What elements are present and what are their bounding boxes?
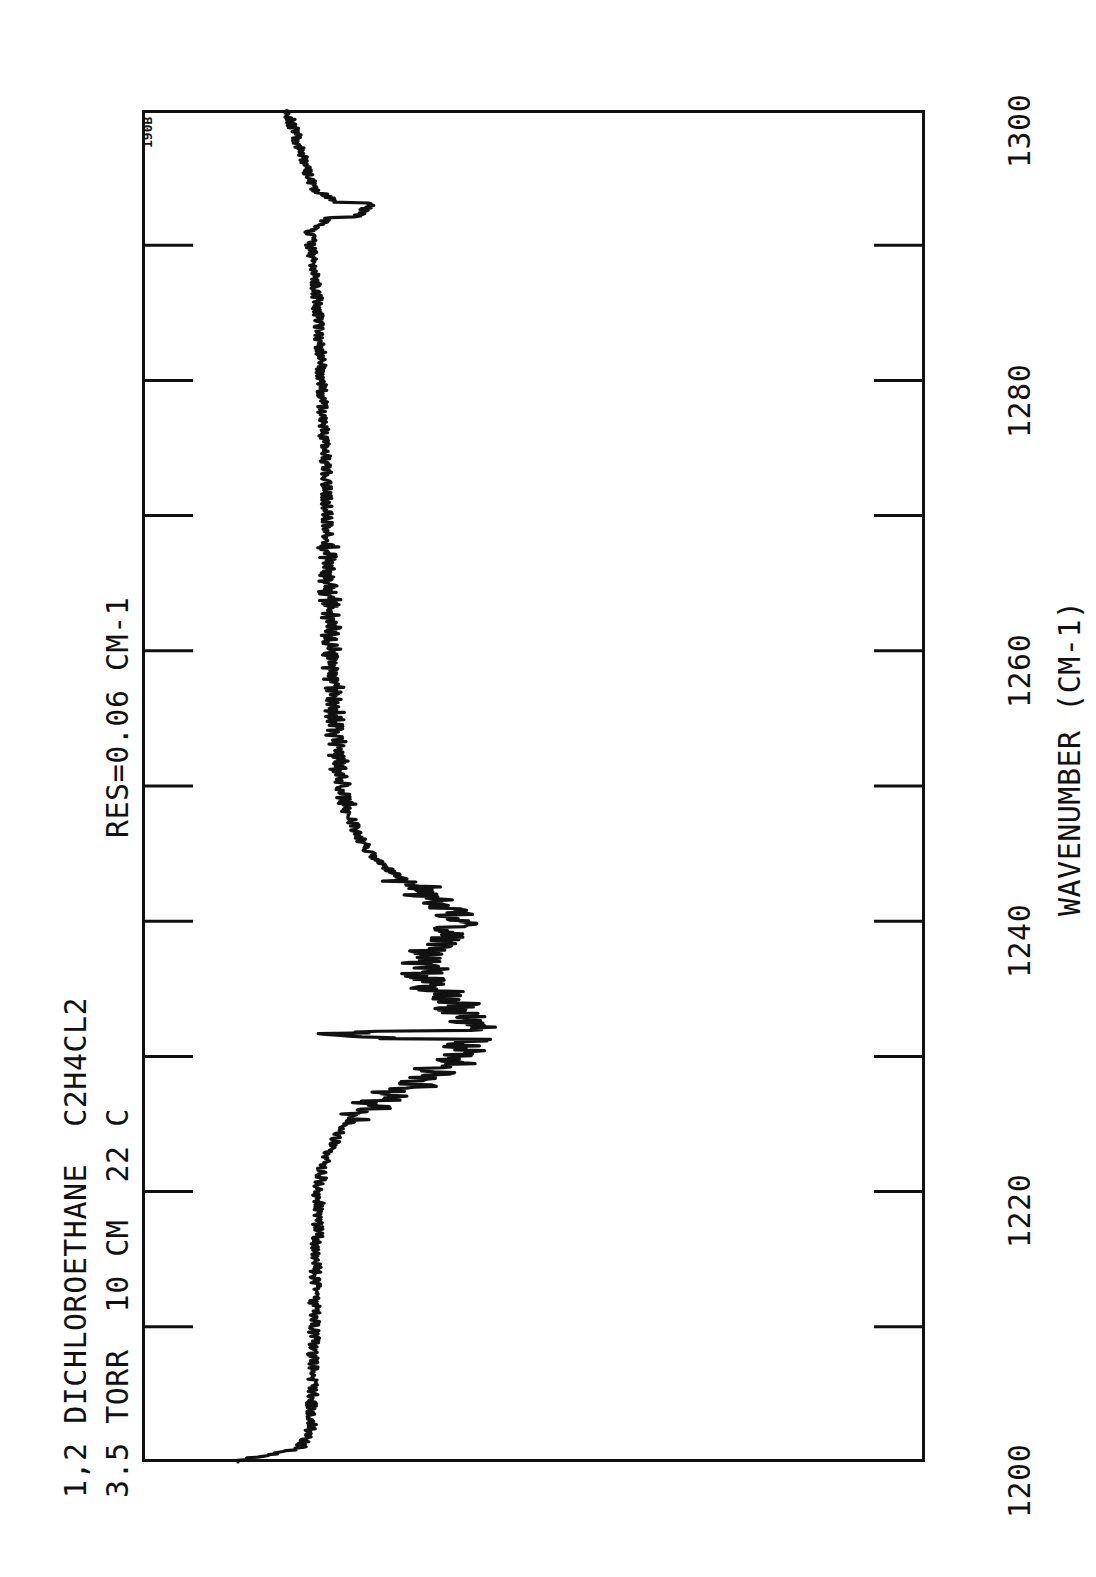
resolution-annotation: RES=0.06 CM-1 — [100, 597, 135, 838]
spectrum-trace — [237, 111, 495, 1462]
x-tick-label-1220: 1220 — [1002, 1174, 1037, 1248]
x-tick-label-1300: 1300 — [1002, 94, 1037, 168]
x-tick-label-1280: 1280 — [1002, 364, 1037, 438]
x-tick-label-1260: 1260 — [1002, 634, 1037, 708]
sample-conditions: 3.5 TORR 10 CM 22 C — [100, 1108, 135, 1498]
spectrum-plot — [142, 110, 925, 1462]
x-axis-title: WAVENUMBER (CM-1) — [1052, 600, 1087, 916]
plot-area — [142, 110, 925, 1462]
compound-title: 1,2 DICHLOROETHANE C2H4CL2 — [58, 997, 93, 1498]
spectrum-figure-page: 190B 1,2 DICHLOROETHANE C2H4CL2 3.5 TORR… — [0, 0, 1096, 1577]
axis-ticks — [145, 245, 922, 1327]
x-tick-label-1200: 1200 — [1002, 1444, 1037, 1518]
x-tick-label-1240: 1240 — [1002, 904, 1037, 978]
plot-frame-box — [144, 112, 924, 1461]
